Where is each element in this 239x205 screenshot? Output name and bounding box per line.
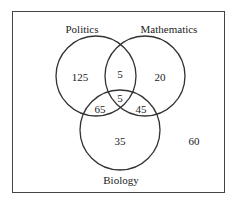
all-three-value: 5 xyxy=(117,93,123,104)
biology-only-value: 35 xyxy=(115,136,126,147)
politics-only-value: 125 xyxy=(72,72,89,83)
none-value: 60 xyxy=(189,136,200,147)
mathematics-only-value: 20 xyxy=(155,72,166,83)
biology-label: Biology xyxy=(103,175,138,186)
mathematics-biology-value: 45 xyxy=(136,104,147,115)
politics-label: Politics xyxy=(65,24,98,35)
mathematics-label: Mathematics xyxy=(141,24,198,35)
venn-diagram: Politics Mathematics Biology 125 20 5 5 … xyxy=(0,0,239,205)
politics-biology-value: 65 xyxy=(95,104,106,115)
politics-mathematics-value: 5 xyxy=(117,69,123,80)
